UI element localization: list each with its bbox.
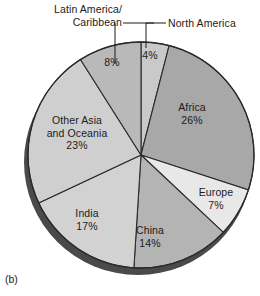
slice-value-china: 14% (120, 237, 180, 250)
pie-chart-figure: Latin America/ Caribbean North America 8… (0, 0, 260, 296)
slice-label-africa: Africa 26% (160, 101, 224, 126)
callout-label-latin-america-line2: Caribbean (36, 16, 122, 29)
slice-label-india: India 17% (57, 207, 117, 232)
figure-caption: (b) (5, 273, 18, 285)
slice-name-africa: Africa (160, 101, 224, 114)
slice-label-other-asia-oceania: Other Asia and Oceania 23% (33, 114, 121, 152)
slice-value-africa: 26% (160, 114, 224, 127)
slice-value-europe: 7% (186, 199, 246, 212)
callout-label-north-america: North America (168, 17, 236, 30)
slice-name-other-asia-line2: and Oceania (33, 127, 121, 140)
slice-value-other-asia-oceania: 23% (33, 139, 121, 152)
slice-name-china: China (120, 224, 180, 237)
slice-value-latin-america-caribbean: 8% (96, 56, 128, 69)
slice-label-china: China 14% (120, 224, 180, 249)
slice-label-europe: Europe 7% (186, 186, 246, 211)
slice-name-india: India (57, 207, 117, 220)
slice-name-europe: Europe (186, 186, 246, 199)
callout-label-latin-america-line1: Latin America/ (36, 3, 122, 16)
slice-value-north-america: 4% (134, 49, 166, 62)
slice-value-india: 17% (57, 220, 117, 233)
callout-label-latin-america-caribbean: Latin America/ Caribbean (36, 3, 122, 28)
slice-name-other-asia-line1: Other Asia (33, 114, 121, 127)
